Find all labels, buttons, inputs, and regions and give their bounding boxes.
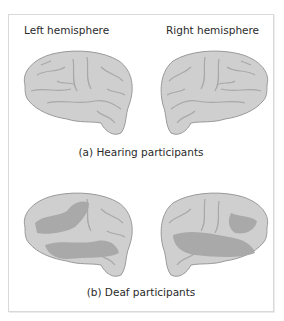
right-hemisphere-label: Right hemisphere — [166, 24, 259, 36]
left-hemisphere-label: Left hemisphere — [24, 24, 109, 36]
hearing-right-brain-image — [159, 45, 275, 137]
panel-a-caption: (a) Hearing participants — [9, 146, 273, 158]
deaf-left-brain-image — [17, 187, 137, 279]
deaf-right-brain-image — [159, 187, 275, 279]
panel-b-caption: (b) Deaf participants — [9, 286, 273, 298]
hearing-left-brain-image — [17, 45, 137, 137]
figure-frame: Left hemisphere Right hemisphere (a) Hea… — [8, 14, 274, 312]
activation-region — [45, 241, 119, 259]
